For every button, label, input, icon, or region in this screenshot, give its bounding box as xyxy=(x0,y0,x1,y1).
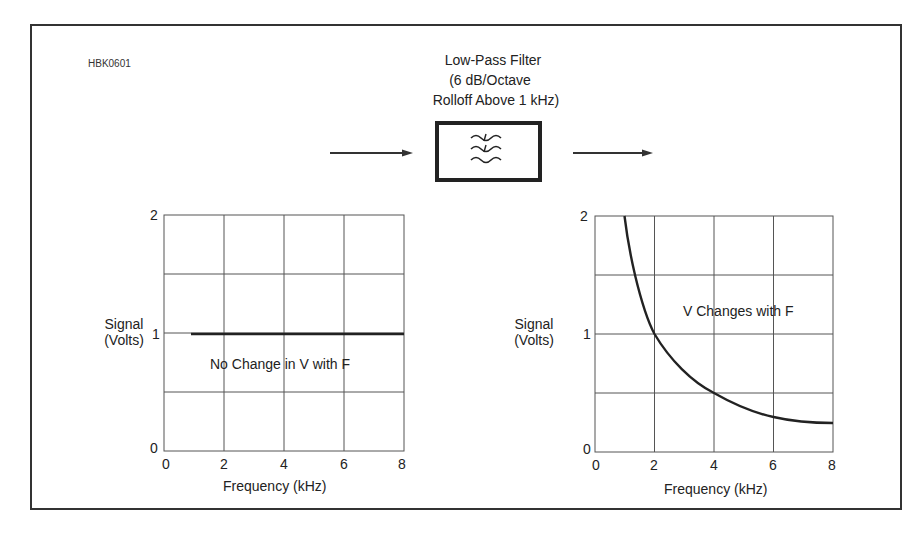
diagram-graphics xyxy=(0,0,917,544)
low-pass-filter-icon xyxy=(437,123,540,180)
right-x-tick-6: 6 xyxy=(769,457,777,473)
right-y-label: Signal (Volts) xyxy=(510,316,558,348)
left-x-tick-2: 2 xyxy=(220,456,228,472)
right-y-tick-0: 0 xyxy=(583,441,591,457)
left-y-label-line2: (Volts) xyxy=(100,332,148,348)
left-y-tick-0: 0 xyxy=(150,440,158,456)
left-chart-annotation: No Change in V with F xyxy=(210,356,350,372)
right-x-label: Frequency (kHz) xyxy=(664,481,767,497)
right-y-label-line1: Signal xyxy=(510,316,558,332)
right-x-tick-0: 0 xyxy=(592,457,600,473)
right-y-label-line2: (Volts) xyxy=(510,332,558,348)
right-chart-signal-curve xyxy=(625,216,834,423)
left-x-tick-0: 0 xyxy=(162,456,170,472)
left-y-tick-2: 2 xyxy=(150,207,158,223)
right-x-tick-2: 2 xyxy=(650,457,658,473)
right-x-tick-8: 8 xyxy=(828,457,836,473)
left-x-label: Frequency (kHz) xyxy=(223,478,326,494)
left-x-tick-6: 6 xyxy=(340,456,348,472)
right-y-tick-1: 1 xyxy=(583,326,591,342)
right-chart-annotation: V Changes with F xyxy=(683,303,794,319)
left-x-tick-8: 8 xyxy=(398,456,406,472)
input-arrow-icon xyxy=(330,150,413,157)
left-y-label: Signal (Volts) xyxy=(100,316,148,348)
output-arrow-icon xyxy=(573,150,653,157)
left-x-tick-4: 4 xyxy=(280,456,288,472)
right-x-tick-4: 4 xyxy=(710,457,718,473)
left-y-label-line1: Signal xyxy=(100,316,148,332)
right-y-tick-2: 2 xyxy=(580,208,588,224)
left-y-tick-1: 1 xyxy=(152,326,160,342)
